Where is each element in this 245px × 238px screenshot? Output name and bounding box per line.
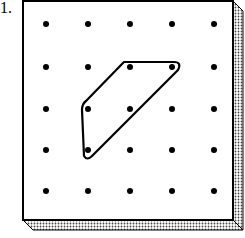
board-side-right [233,1,243,230]
geoboard [0,0,245,238]
board-side-bottom [23,220,243,230]
